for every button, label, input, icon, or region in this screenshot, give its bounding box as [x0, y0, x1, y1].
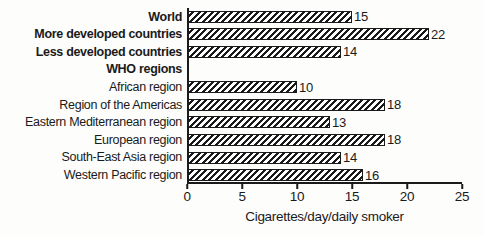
bar-cell [187, 61, 462, 79]
chart-rows: World15More developed countries22Less de… [0, 8, 462, 184]
bar-value: 14 [343, 45, 357, 58]
cigarettes-per-day-bar-chart: World15More developed countries22Less de… [0, 0, 484, 237]
bar-value: 18 [387, 133, 401, 146]
bar-cell: 10 [187, 78, 462, 96]
row-label: World [0, 11, 187, 24]
bar-value: 13 [332, 116, 346, 129]
bar [187, 116, 330, 128]
bar-value: 14 [343, 151, 357, 164]
x-axis: 0510152025 [187, 184, 462, 206]
bar [187, 28, 429, 40]
bar-row: European region18 [0, 131, 462, 149]
bar-cell: 15 [187, 8, 462, 26]
axis-tick-label: 10 [290, 190, 304, 204]
bar-cell: 16 [187, 166, 462, 184]
row-label: African region [0, 81, 187, 94]
row-label: Region of the Americas [0, 99, 187, 112]
bar-value: 15 [354, 10, 368, 23]
bar-cell: 14 [187, 43, 462, 61]
row-label: European region [0, 134, 187, 147]
group-header-row: WHO regions [0, 61, 462, 79]
bar-cell: 18 [187, 131, 462, 149]
axis-tick-label: 0 [183, 190, 190, 204]
group-header-label: WHO regions [0, 63, 187, 76]
bar-row: Eastern Mediterranean region13 [0, 114, 462, 132]
row-label: More developed countries [0, 28, 187, 41]
bar [187, 46, 341, 58]
bar-row: More developed countries22 [0, 26, 462, 44]
axis-tick-label: 15 [345, 190, 359, 204]
bar [187, 99, 385, 111]
bar-cell: 18 [187, 96, 462, 114]
bar-value: 18 [387, 98, 401, 111]
x-axis-title: Cigarettes/day/daily smoker [187, 209, 462, 224]
bar-value: 22 [431, 28, 445, 41]
bar-row: World15 [0, 8, 462, 26]
bar-row: African region10 [0, 78, 462, 96]
row-label: South-East Asia region [0, 151, 187, 164]
axis-tick-label: 25 [455, 190, 469, 204]
bar-value: 16 [365, 169, 379, 182]
bar [187, 134, 385, 146]
bar-value: 10 [299, 81, 313, 94]
row-label: Western Pacific region [0, 169, 187, 182]
bar-row: South-East Asia region14 [0, 149, 462, 167]
bar-cell: 13 [187, 114, 462, 132]
bar-row: Less developed countries14 [0, 43, 462, 61]
bar [187, 11, 352, 23]
row-label: Less developed countries [0, 46, 187, 59]
row-label: Eastern Mediterranean region [0, 116, 187, 129]
bar-row: Western Pacific region16 [0, 166, 462, 184]
bar-cell: 22 [187, 26, 462, 44]
bar [187, 169, 363, 181]
bar-row: Region of the Americas18 [0, 96, 462, 114]
axis-tick-label: 20 [400, 190, 414, 204]
bar [187, 81, 297, 93]
axis-tick-label: 5 [238, 190, 245, 204]
bar-cell: 14 [187, 149, 462, 167]
bar [187, 152, 341, 164]
